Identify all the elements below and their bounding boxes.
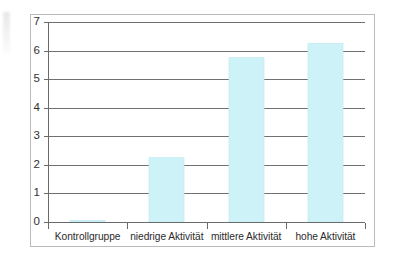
y-axis-tick-label-6: 6 [26,45,40,57]
bar-0 [70,220,105,222]
y-axis-tick-marks [44,23,48,223]
y-axis-tick-label-2: 2 [26,159,40,171]
y-axis-tick-label-1: 1 [26,187,40,199]
bar-1 [149,158,184,222]
bar-3 [308,43,343,222]
y-axis-tick-label-0: 0 [26,216,40,228]
x-axis-category-label-0: Kontrollgruppe [48,232,127,242]
bar-chart [0,0,394,261]
x-axis-category-label-2: mittlere Aktivität [207,232,286,242]
bars-group [70,43,343,222]
x-axis-category-label-1: niedrige Aktivität [127,232,206,242]
x-axis-category-label-3: hohe Aktivität [286,232,365,242]
y-axis-tick-label-5: 5 [26,73,40,85]
y-axis-tick-label-3: 3 [26,130,40,142]
bar-2 [229,58,264,222]
x-axis-tick-marks [49,223,366,229]
y-axis-tick-label-4: 4 [26,102,40,114]
y-axis-tick-label-7: 7 [26,16,40,28]
